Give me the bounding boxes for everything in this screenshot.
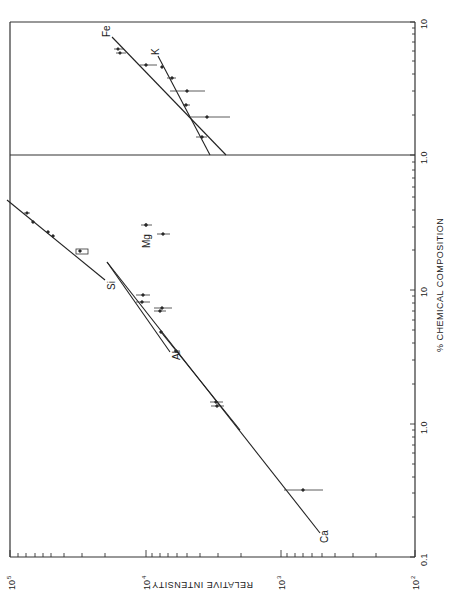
y-tick-exp-1e2: 2: [410, 575, 416, 579]
y-tick-base-1e5: 10: [7, 580, 17, 590]
si-points: [24, 212, 88, 254]
mg-points: [141, 224, 170, 236]
intensity-axis-ticks: [10, 550, 415, 557]
composition-axis-ticks: [410, 22, 415, 557]
plot-frame: [10, 22, 415, 557]
fe-points: [114, 48, 126, 54]
x-tick-1-0: 1.0: [419, 421, 429, 434]
y-tick-base-1e4: 10: [142, 580, 152, 590]
si-label: Si: [106, 281, 117, 290]
composition-tick-labels: 0.1 1.0 10 1.0 10 % CHEMICAL COMPOSITION: [419, 19, 445, 566]
al-fit-line: [107, 262, 170, 352]
ca-label: Ca: [319, 530, 330, 543]
series-labels: Ca Al Si Mg Fe K: [101, 25, 330, 543]
fe-fit-line: [112, 37, 226, 155]
mg-label: Mg: [141, 234, 152, 248]
y-tick-exp-1e3: 3: [276, 575, 282, 579]
k-fit-line: [158, 56, 210, 155]
y-tick-exp-1e5: 5: [6, 575, 12, 579]
data-points: [24, 48, 323, 492]
x-axis-label: % CHEMICAL COMPOSITION: [435, 218, 445, 352]
k-points: [140, 64, 230, 139]
si-fit-line: [7, 200, 105, 280]
chart: Ca Al Si Mg Fe K 0.1 1.0 10 1.0 10 % CHE…: [0, 0, 449, 594]
al-lower-segment: [161, 332, 240, 430]
y-tick-exp-1e4: 4: [141, 575, 147, 579]
fe-label: Fe: [101, 25, 112, 37]
x-tick-10-upper: 10: [419, 19, 429, 29]
intensity-tick-labels: 10 5 10 4 10 3 10 2 RELATIVE INTENSITY: [6, 575, 421, 590]
x-tick-1-0-upper: 1.0: [419, 151, 429, 164]
y-tick-base-1e3: 10: [277, 580, 287, 590]
x-tick-10: 10: [419, 287, 429, 297]
y-tick-base-1e2: 10: [411, 580, 421, 590]
al-points: [136, 294, 180, 353]
y-axis-label: RELATIVE INTENSITY: [152, 580, 253, 590]
k-label: K: [150, 48, 161, 55]
fit-lines: [7, 37, 320, 533]
al-label: Al: [171, 351, 182, 360]
x-tick-0-1: 0.1: [419, 553, 429, 566]
